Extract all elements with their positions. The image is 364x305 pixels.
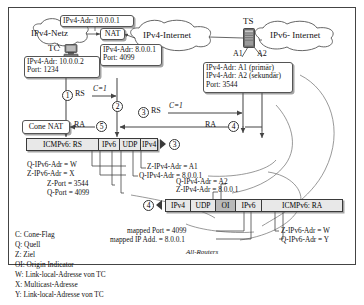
packet-ra-annotation-4: Z-IPv6-Adr = W [281,227,330,235]
packet-rs-annotation-1: Z-IPv6-Adr = X [27,170,74,178]
callout-line: Port: 4099 [103,54,159,62]
flow-label-4: RA [205,121,216,129]
node-label-cone-nat: Cone NAT [29,123,63,132]
packet-ra: IPv4 UDP OI IPv6 ICMPv6: RA [165,199,343,212]
callout-ts-info: IPv4-Adr: A1 (primär) IPv4-Adr: A2 (seku… [203,62,293,93]
cloud-label-ipv6internet: IPv6- Internet [270,30,320,40]
packet-ra-seg-2: OI [216,200,236,211]
packet-ra-annotation-5: Q-IPv6-Adr = Y [281,236,329,244]
packet-ra-annotation-0: Z-IPv4-Adr = 8.0.0.1 [176,186,238,194]
packet-rs-annotation-4: Z-IPv4-Adr = A1 [147,163,198,171]
legend-item: Z: Ziel [15,250,106,260]
packet-ra-seg-4: ICMPv6: RA [262,200,342,211]
flow-marker-2[interactable]: 2 [112,101,123,112]
packet-rs-step-marker[interactable]: 3 [169,139,180,150]
node-label-ts: TS [243,17,254,26]
legend-item: W: Link-local-Adresse von TC [15,270,106,280]
flow-marker-5[interactable]: 5 [96,121,107,132]
interface-label-a2: A2 [257,50,267,58]
flow-flag-3: C=1 [169,102,183,110]
flow-marker-4[interactable]: 4 [228,121,239,132]
packet-rs-seg-2: UDP [120,139,141,150]
callout-nat-info: IPv4-Adr: 8.0.0.1 Port: 4099 [100,44,162,66]
callout-line: IPv4-Adr: 10.0.0.1 [63,17,131,25]
legend-item: OI: Origin Indicator [15,260,106,270]
packet-rs-seg-0: ICMPv6: RS [27,139,99,150]
packet-ra-step-marker[interactable]: 4 [143,200,154,211]
computer-icon [63,43,79,56]
flow-marker-1[interactable]: 1 [62,90,73,101]
packet-ra-footnote: All-Routers [186,249,218,256]
packet-ra-direction-arrow-icon [156,200,162,210]
packet-ra-seg-1: UDP [191,200,216,211]
packet-ra-seg-0: IPv4 [166,200,191,211]
legend-item: Y: Link-local-Adresse von TC [15,290,106,300]
packet-rs-annotation-0: Q-IPv6-Adr = W [27,161,77,169]
cloud-label-ipv4netz: IPv4-Netz [31,28,68,38]
flow-label-1: RS [75,90,85,98]
flow-marker-3[interactable]: 3 [138,107,149,118]
server-icon [243,28,255,48]
packet-ra-annotation-2: mapped Port = 4099 [127,227,186,235]
packet-ra-annotation-1: Q-IPv4-Adr = A2 [176,178,228,186]
legend-item: C: Cone-Flag [15,230,106,240]
callout-line: Port: 3544 [206,81,290,89]
callout-ipv4netz-addr: IPv4-Adr: 10.0.0.1 [60,15,134,27]
flow-flag-1: C=1 [93,85,107,93]
flow-label-3: RS [151,107,161,115]
packet-ra-annotation-3: mapped IP Add. = 8.0.0.1 [110,236,185,244]
packet-rs-seg-3: IPv4 [141,139,157,150]
node-label-tc: TC [48,44,60,53]
callout-line: Port: 1234 [27,66,97,74]
callout-tc-info: IPv4-Adr: 10.0.0.2 Port: 1234 [24,56,100,78]
interface-label-a1: A1 [233,50,243,58]
diagram-canvas: IPv4-Netz IPv4-Internet IPv6- Internet T… [0,0,364,305]
packet-rs-annotation-2: Z-Port = 3544 [47,180,88,188]
node-nat[interactable]: NAT [100,28,125,40]
cloud-label-ipv4internet: IPv4-Internet [143,30,191,40]
packet-ra-seg-3: IPv6 [236,200,262,211]
packet-rs-annotation-3: Q-Port = 4099 [47,189,89,197]
legend-item: Q: Quell [15,240,106,250]
packet-rs-direction-arrow-icon [160,139,166,149]
packet-rs-seg-1: IPv6 [99,139,120,150]
flow-label-5: RA [74,121,85,129]
node-cone-nat[interactable]: Cone NAT [22,120,70,134]
legend-item: X: Multicast-Adresse [15,280,106,290]
packet-rs: ICMPv6: RS IPv6 UDP IPv4 [26,138,158,151]
node-label-nat: NAT [105,30,121,39]
legend: C: Cone-Flag Q: Quell Z: Ziel OI: Origin… [15,230,106,300]
